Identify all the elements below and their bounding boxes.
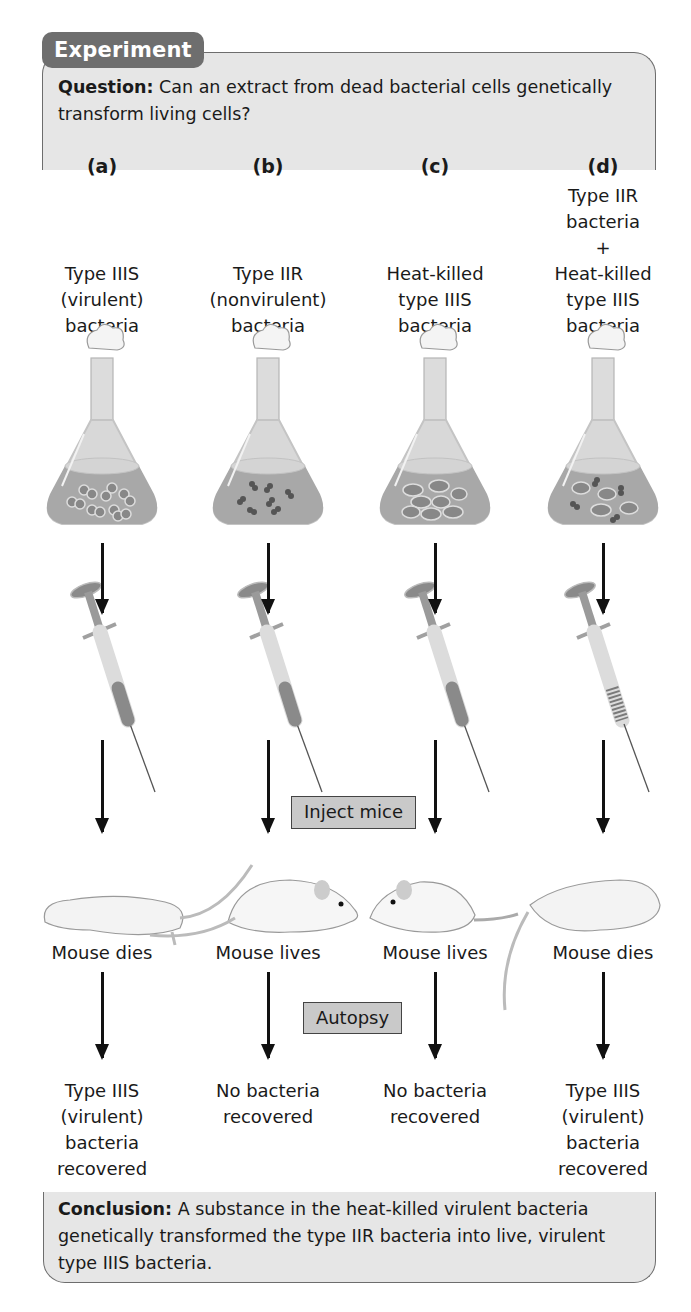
arrow-mouse-to-outcome-c — [434, 972, 437, 1058]
flask-d-icon — [548, 324, 658, 524]
outcome-c-line: recovered — [350, 1104, 520, 1130]
mouse-a-dead-icon — [44, 865, 252, 945]
outcome-d-line: recovered — [518, 1156, 688, 1182]
mouse-result-c: Mouse lives — [350, 940, 520, 966]
mouse-b-alive-icon — [150, 880, 358, 936]
arrow-flask-to-syringe-b — [267, 543, 270, 613]
arrow-syringe-to-mouse-c — [434, 740, 437, 832]
mouse-c-alive-icon — [370, 880, 518, 932]
outcome-d: Type IIIS (virulent) bacteria recovered — [518, 1078, 688, 1182]
arrow-flask-to-syringe-d — [602, 543, 605, 613]
outcome-d-line: bacteria — [518, 1130, 688, 1156]
mouse-result-a: Mouse dies — [17, 940, 187, 966]
outcome-a-line: bacteria — [17, 1130, 187, 1156]
outcome-a-line: recovered — [17, 1156, 187, 1182]
syringe-b-icon — [236, 579, 322, 792]
arrow-syringe-to-mouse-b — [267, 740, 270, 832]
outcome-c: No bacteria recovered — [350, 1078, 520, 1130]
outcome-b-line: No bacteria — [183, 1078, 353, 1104]
outcome-d-line: Type IIIS — [518, 1078, 688, 1104]
flask-a-icon — [47, 324, 157, 524]
syringe-a-icon — [69, 579, 155, 792]
autopsy-label: Autopsy — [303, 1002, 402, 1034]
arrow-mouse-to-outcome-a — [101, 972, 104, 1058]
outcome-b: No bacteria recovered — [183, 1078, 353, 1130]
mouse-result-d: Mouse dies — [518, 940, 688, 966]
syringe-c-icon — [403, 579, 489, 792]
conclusion-label: Conclusion: — [58, 1199, 172, 1219]
arrow-syringe-to-mouse-d — [602, 740, 605, 832]
flask-c-icon — [380, 324, 490, 524]
inject-mice-label: Inject mice — [291, 796, 416, 829]
conclusion: Conclusion: A substance in the heat-kill… — [58, 1196, 648, 1277]
arrow-flask-to-syringe-c — [434, 543, 437, 613]
outcome-b-line: recovered — [183, 1104, 353, 1130]
mouse-result-b: Mouse lives — [183, 940, 353, 966]
outcome-c-line: No bacteria — [350, 1078, 520, 1104]
outcome-a-line: (virulent) — [17, 1104, 187, 1130]
flask-b-icon — [213, 324, 323, 524]
outcome-a-line: Type IIIS — [17, 1078, 187, 1104]
arrow-syringe-to-mouse-a — [101, 740, 104, 832]
outcome-a: Type IIIS (virulent) bacteria recovered — [17, 1078, 187, 1182]
arrow-mouse-to-outcome-d — [602, 972, 605, 1058]
outcome-d-line: (virulent) — [518, 1104, 688, 1130]
arrow-mouse-to-outcome-b — [267, 972, 270, 1058]
arrow-flask-to-syringe-a — [101, 543, 104, 613]
